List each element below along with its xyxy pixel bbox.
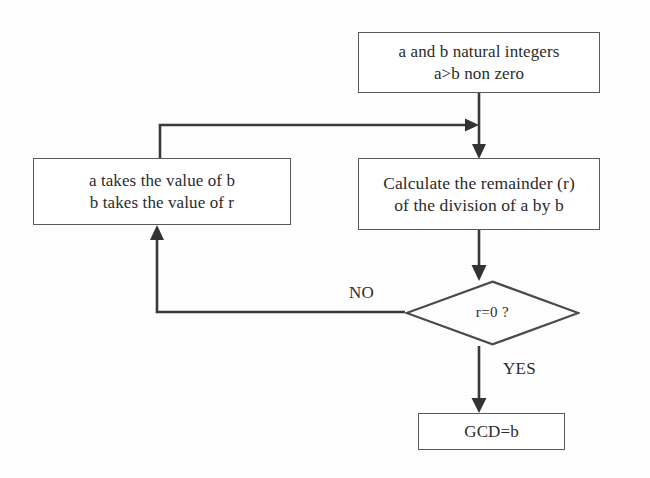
- node-assign-line-2: b takes the value of r: [90, 192, 234, 214]
- edge-assign-to-trunk: [160, 125, 470, 158]
- node-result-gcd: GCD=b: [418, 413, 565, 450]
- node-remainder-line-2: of the division of a by b: [394, 194, 564, 216]
- node-result-label: GCD=b: [464, 421, 518, 443]
- node-remainder-line-1: Calculate the remainder (r): [383, 172, 575, 194]
- node-decision-remainder-zero: r=0 ?: [405, 280, 580, 346]
- arrowhead-into-remainder: [472, 144, 486, 159]
- node-start-line-1: a and b natural integers: [398, 41, 559, 63]
- arrowhead-into-result: [472, 398, 487, 413]
- node-start-line-2: a>b non zero: [434, 63, 524, 85]
- edge-label-yes: YES: [503, 359, 536, 379]
- edge-label-no: NO: [349, 283, 374, 303]
- flowchart-canvas: a and b natural integers a>b non zero a …: [0, 0, 650, 478]
- arrowhead-into-assign: [150, 225, 164, 240]
- node-calculate-remainder: Calculate the remainder (r) of the divis…: [358, 158, 600, 230]
- node-start-inputs: a and b natural integers a>b non zero: [358, 32, 600, 93]
- arrowhead-into-trunk: [465, 119, 479, 132]
- arrowhead-into-decision: [472, 265, 487, 281]
- node-decision-label: r=0 ?: [476, 303, 509, 322]
- node-assign-line-1: a takes the value of b: [89, 170, 235, 192]
- node-assign-values: a takes the value of b b takes the value…: [33, 158, 291, 225]
